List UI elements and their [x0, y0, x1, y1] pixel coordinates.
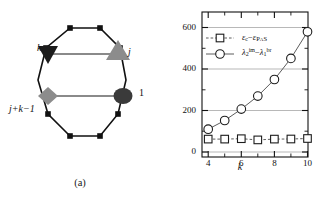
figure-container: k j j+k−1 1 (a) — [0, 0, 320, 207]
label-one: 1 — [139, 88, 144, 98]
up-triangle-j-icon — [106, 40, 130, 60]
panel-b: 600 400 200 0 4 6 8 10 εc−εPaS λ2im−λ1br… — [160, 0, 320, 207]
y-tick-600: 600 — [168, 22, 196, 32]
y-tick-400: 400 — [168, 63, 196, 73]
decagon-outline — [38, 28, 126, 136]
decagon-svg — [0, 8, 160, 163]
y-tick-200: 200 — [168, 105, 196, 115]
x-axis-title: k — [160, 161, 320, 172]
legend-sample-lambda — [206, 50, 234, 59]
panel-a: k j j+k−1 1 (a) — [0, 0, 160, 207]
legend-eps-sub2: PaS — [256, 35, 267, 42]
legend-label-lambda: λ2im−λ1br — [242, 47, 272, 57]
legend-lam-sup2: br — [267, 47, 272, 53]
caption-panel-a: (a) — [0, 177, 160, 188]
legend-sample-epsilon — [206, 34, 234, 42]
chart-plot-area: 600 400 200 0 4 6 8 10 εc−εPaS λ2im−λ1br… — [160, 0, 320, 175]
series-epsilon-markers — [204, 135, 311, 144]
ellipse-one-icon — [114, 88, 133, 104]
label-j: j — [128, 47, 131, 57]
y-tick-0: 0 — [168, 146, 196, 156]
label-k: k — [37, 43, 41, 53]
decagon-diagram — [0, 8, 160, 163]
legend-label-epsilon: εc−εPaS — [242, 32, 267, 42]
label-jk1: j+k−1 — [9, 104, 35, 114]
series-lambda-markers — [204, 28, 312, 134]
